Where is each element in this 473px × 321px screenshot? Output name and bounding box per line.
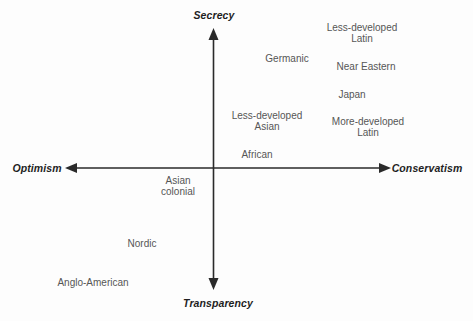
quadrant-label: Less-developed Latin: [327, 22, 398, 44]
arrowhead-down-icon: [209, 278, 219, 290]
quadrant-label: Anglo-American: [57, 277, 128, 288]
axes-arrows: [0, 0, 473, 321]
quadrant-label: Germanic: [265, 53, 308, 64]
quadrant-label: Less-developed Asian: [232, 110, 303, 132]
quadrant-label: Asian colonial: [161, 175, 195, 197]
axis-label-transparency: Transparency: [183, 297, 253, 309]
arrowhead-up-icon: [209, 28, 219, 40]
quadrant-diagram: Secrecy Transparency Optimism Conservati…: [0, 0, 473, 321]
arrowhead-left-icon: [65, 163, 77, 173]
quadrant-label: Nordic: [128, 238, 157, 249]
quadrant-label: Japan: [338, 89, 365, 100]
axis-label-conservatism: Conservatism: [392, 162, 463, 174]
quadrant-label: African: [241, 149, 272, 160]
quadrant-label: More-developed Latin: [332, 116, 404, 138]
axis-label-secrecy: Secrecy: [194, 9, 235, 21]
arrowhead-right-icon: [379, 163, 391, 173]
quadrant-label: Near Eastern: [337, 61, 396, 72]
axis-label-optimism: Optimism: [12, 162, 61, 174]
